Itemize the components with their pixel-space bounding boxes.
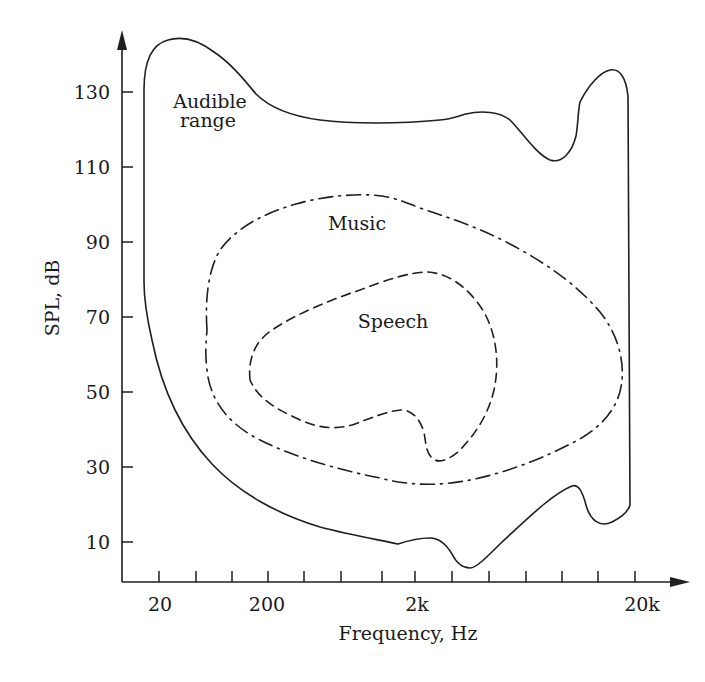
y-axis: 130 110 90 70 50 30 10 SPL, dB	[41, 30, 133, 582]
music-contour	[206, 195, 622, 484]
y-tick-label: 130	[74, 81, 110, 103]
y-axis-title: SPL, dB	[41, 260, 63, 337]
y-tick-label: 90	[86, 231, 110, 253]
y-axis-arrow-icon	[117, 30, 127, 50]
x-axis: 20 200 2k 20k Frequency, Hz	[122, 571, 690, 644]
y-tick-label: 110	[74, 156, 110, 178]
audible-range-diagram: 130 110 90 70 50 30 10 SPL, dB	[0, 0, 705, 682]
y-tick-label: 50	[86, 381, 110, 403]
speech-contour	[250, 272, 497, 461]
x-tick-label: 200	[249, 593, 285, 615]
y-tick-label: 10	[86, 531, 110, 553]
x-tick-label: 20	[148, 593, 172, 615]
y-tick-label: 70	[86, 306, 110, 328]
diagram-canvas: 130 110 90 70 50 30 10 SPL, dB	[0, 0, 705, 682]
x-axis-arrow-icon	[670, 577, 690, 587]
speech-label: Speech	[358, 310, 429, 332]
x-tick-label: 20k	[624, 593, 660, 615]
y-tick-label: 30	[86, 456, 110, 478]
x-axis-title: Frequency, Hz	[339, 622, 478, 644]
audible-range-label-line2: range	[180, 109, 236, 131]
music-label: Music	[328, 212, 386, 234]
x-tick-label: 2k	[405, 593, 429, 615]
